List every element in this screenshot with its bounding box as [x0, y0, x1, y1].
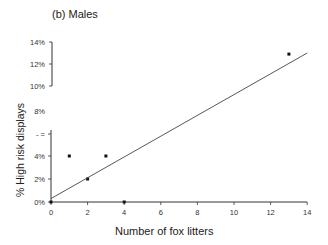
y-tick-label: - =: [36, 130, 46, 139]
y-tick-label: 8%: [34, 107, 45, 116]
x-tick-label: 8: [195, 208, 199, 217]
x-tick-label: 12: [266, 208, 274, 217]
axes: 024681012140%2%4%- =8%10%12%14%: [30, 38, 311, 217]
x-tick-label: 4: [122, 208, 126, 217]
y-tick-label: 4%: [34, 152, 45, 161]
data-point: [104, 155, 107, 158]
plot-area: [50, 53, 308, 204]
regression-line: [51, 53, 307, 199]
y-tick-label: 12%: [30, 60, 45, 69]
data-point: [68, 155, 71, 158]
x-tick-label: 14: [303, 208, 311, 217]
x-tick-label: 10: [230, 208, 238, 217]
y-tick-label: 14%: [30, 38, 45, 47]
y-tick-label: 0%: [34, 198, 45, 207]
y-tick-label: 2%: [34, 175, 45, 184]
scatter-plot: 024681012140%2%4%- =8%10%12%14%: [0, 0, 328, 245]
data-point: [123, 201, 126, 204]
x-tick-label: 0: [49, 208, 53, 217]
data-point: [50, 201, 53, 204]
x-tick-label: 2: [86, 208, 90, 217]
data-point: [287, 53, 290, 56]
y-tick-label: 10%: [30, 82, 45, 91]
x-tick-label: 6: [159, 208, 163, 217]
